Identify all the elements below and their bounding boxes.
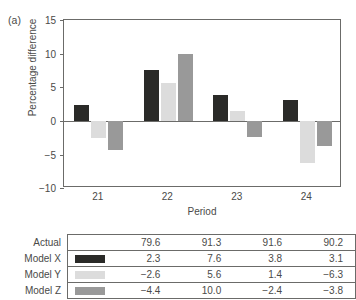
- legend-swatch-model-x: [75, 255, 105, 263]
- table-pad-cell: [355, 235, 356, 251]
- y-tick-5: 5: [50, 78, 64, 96]
- row-label-actual: Actual: [0, 235, 68, 251]
- bar-model-y-period-21: [91, 121, 106, 138]
- y-tick-label: −5: [45, 150, 60, 161]
- bar-group-period-22: [144, 20, 193, 186]
- y-tick-label: 10: [45, 49, 60, 60]
- bar-group-period-23: [213, 20, 262, 186]
- bar-group-period-21: [74, 20, 123, 186]
- y-axis-title: Percentage difference: [27, 0, 38, 148]
- swatch-cell: [68, 235, 112, 251]
- bar-model-x-period-24: [283, 100, 298, 121]
- bar-model-x-period-21: [74, 105, 89, 120]
- bar-model-z-period-21: [108, 121, 123, 151]
- y-tick-label: 0: [50, 116, 60, 127]
- cell-model-z-period-22: 10.0: [172, 283, 233, 299]
- cell-model-z-period-23: −2.4: [233, 283, 294, 299]
- x-tick-label-23: 23: [231, 191, 242, 202]
- x-tick-label-24: 24: [301, 191, 312, 202]
- swatch-cell: [68, 283, 112, 299]
- y-tick-mark: [60, 87, 64, 88]
- table-pad-cell: [355, 267, 356, 283]
- x-tick-label-22: 22: [162, 191, 173, 202]
- legend-table-panel-b: (b) Actual79.691.391.690.2Model X2.37.63…: [0, 234, 356, 300]
- y-tick-minus5: −5: [45, 145, 64, 163]
- bar-model-z-period-22: [178, 54, 193, 121]
- cell-model-y-period-22: 5.6: [172, 267, 233, 283]
- bar-model-z-period-23: [247, 121, 262, 137]
- cell-actual-period-21: 79.6: [112, 235, 173, 251]
- swatch-cell: [68, 267, 112, 283]
- y-tick-label: 15: [45, 15, 60, 26]
- legend-swatch-model-z: [75, 287, 105, 295]
- table-row: Model Y−2.65.61.4−6.3: [0, 267, 356, 283]
- bar-model-z-period-24: [317, 121, 332, 147]
- cell-actual-period-23: 91.6: [233, 235, 294, 251]
- cell-model-x-period-23: 3.8: [233, 251, 294, 267]
- bar-model-y-period-23: [230, 111, 245, 120]
- y-tick-mark: [60, 121, 64, 122]
- cell-model-x-period-22: 7.6: [172, 251, 233, 267]
- y-tick-0: 0: [50, 112, 64, 130]
- y-tick-mark: [60, 188, 64, 189]
- row-label-model-x: Model X: [0, 251, 68, 267]
- y-tick-minus10: −10: [39, 179, 64, 197]
- swatch-cell: [68, 251, 112, 267]
- legend-swatch-model-y: [75, 271, 105, 279]
- table-row: Model Z−4.410.0−2.4−3.8: [0, 283, 356, 299]
- bar-model-x-period-23: [213, 95, 228, 121]
- y-tick-label: −10: [39, 183, 60, 194]
- y-tick-label: 5: [50, 82, 60, 93]
- x-tick-label-21: 21: [92, 191, 103, 202]
- table-row: Actual79.691.391.690.2: [0, 235, 356, 251]
- cell-model-y-period-24: −6.3: [294, 267, 355, 283]
- cell-model-y-period-23: 1.4: [233, 267, 294, 283]
- y-tick-mark: [60, 155, 64, 156]
- bar-model-y-period-22: [161, 83, 176, 121]
- x-axis-title: Period: [63, 206, 341, 217]
- plot-area: 151050−5−10: [63, 19, 341, 187]
- y-tick-mark: [60, 54, 64, 55]
- chart-panel-a: (a) Percentage difference 151050−5−10 21…: [0, 0, 356, 232]
- panel-a-label: (a): [8, 14, 21, 26]
- cell-model-x-period-24: 3.1: [294, 251, 355, 267]
- row-label-model-z: Model Z: [0, 283, 68, 299]
- y-tick-10: 10: [45, 45, 64, 63]
- cell-actual-period-22: 91.3: [172, 235, 233, 251]
- cell-model-z-period-21: −4.4: [112, 283, 173, 299]
- cell-model-z-period-24: −3.8: [294, 283, 355, 299]
- row-label-model-y: Model Y: [0, 267, 68, 283]
- y-tick-mark: [60, 20, 64, 21]
- table-row: Model X2.37.63.83.1: [0, 251, 356, 267]
- table-pad-cell: [355, 251, 356, 267]
- bar-model-x-period-22: [144, 70, 159, 121]
- cell-model-y-period-21: −2.6: [112, 267, 173, 283]
- y-tick-15: 15: [45, 11, 64, 29]
- values-table: Actual79.691.391.690.2Model X2.37.63.83.…: [0, 234, 356, 299]
- cell-actual-period-24: 90.2: [294, 235, 355, 251]
- bar-group-period-24: [283, 20, 332, 186]
- bar-model-y-period-24: [300, 121, 315, 163]
- table-pad-cell: [355, 283, 356, 299]
- cell-model-x-period-21: 2.3: [112, 251, 173, 267]
